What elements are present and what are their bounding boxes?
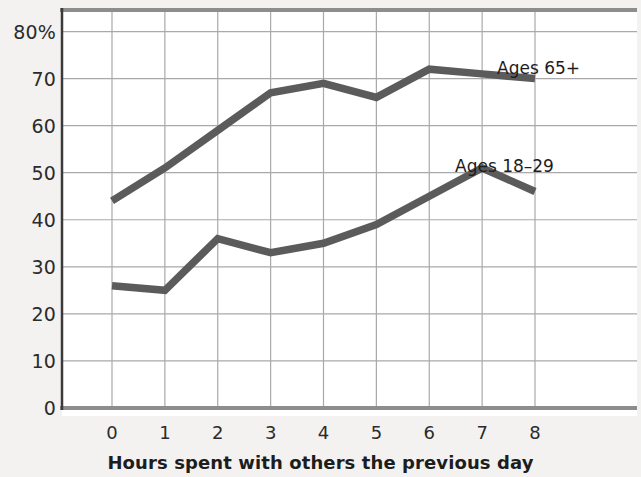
x-axis-title: Hours spent with others the previous day [0, 452, 641, 473]
series-label-ages-18-29: Ages 18–29 [455, 158, 554, 175]
y-tick-label: 10 [0, 352, 56, 371]
x-tick-label: 6 [409, 424, 449, 442]
y-tick-label: 30 [0, 258, 56, 277]
y-tick-label: 70 [0, 70, 56, 89]
series-label-ages-65-plus: Ages 65+ [497, 60, 580, 77]
y-tick-label: 80% [0, 23, 56, 42]
y-tick-label: 20 [0, 305, 56, 324]
x-tick-label: 3 [251, 424, 291, 442]
chart-container: 01020304050607080% 012345678 Ages 65+ Ag… [0, 0, 641, 477]
x-tick-label: 0 [92, 424, 132, 442]
x-tick-label: 2 [198, 424, 238, 442]
x-tick-label: 7 [462, 424, 502, 442]
x-tick-label: 5 [356, 424, 396, 442]
x-tick-label: 4 [304, 424, 344, 442]
series-line-ages-18-29 [112, 168, 535, 290]
x-tick-label: 8 [515, 424, 555, 442]
y-tick-label: 40 [0, 211, 56, 230]
x-tick-label: 1 [145, 424, 185, 442]
series-line-ages-65-plus [112, 69, 535, 201]
y-tick-label: 50 [0, 164, 56, 183]
y-tick-label: 60 [0, 117, 56, 136]
y-tick-label: 0 [0, 399, 56, 418]
